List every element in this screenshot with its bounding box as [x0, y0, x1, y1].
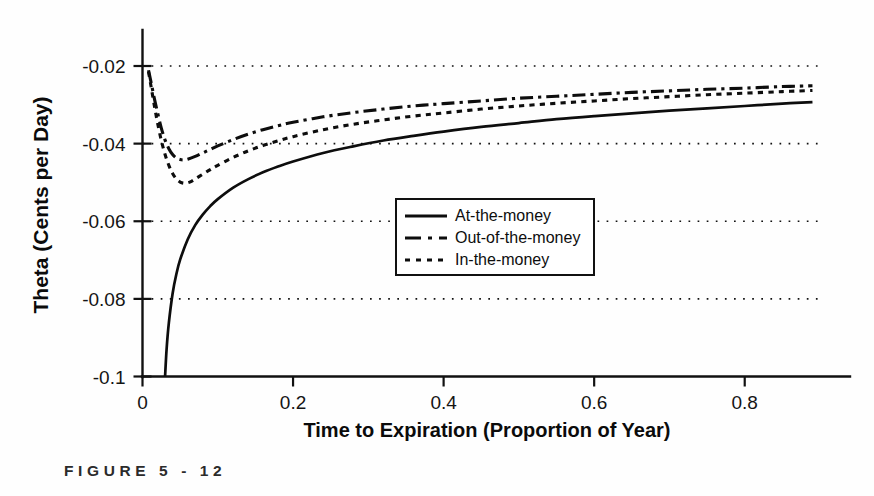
figure-caption: FIGURE 5 - 12	[64, 462, 226, 480]
y-tick-label-2: -0.06	[82, 211, 125, 232]
y-axis-title: Theta (Cents per Day)	[29, 96, 52, 313]
x-tick-label-1: 0.2	[280, 392, 306, 413]
legend-label-out-of-the-money: Out-of-the-money	[455, 230, 580, 246]
legend-item-at-the-money: At-the-money	[404, 205, 587, 227]
legend-swatch-dash-dot-icon	[404, 231, 448, 245]
x-tick-label-3: 0.6	[581, 392, 607, 413]
legend-item-in-the-money: In-the-money	[404, 249, 587, 271]
y-tick-label-1: -0.04	[82, 134, 126, 155]
legend-label-at-the-money: At-the-money	[455, 208, 551, 224]
legend-swatch-dotted-icon	[404, 253, 448, 267]
x-tick-labels: 00.20.40.60.8	[137, 392, 758, 413]
x-tick-label-0: 0	[137, 392, 148, 413]
y-tick-labels: -0.02-0.04-0.06-0.08-0.1	[82, 56, 126, 388]
legend: At-the-money Out-of-the-money In-the-mon…	[395, 198, 595, 276]
legend-label-in-the-money: In-the-money	[455, 252, 549, 268]
legend-item-out-of-the-money: Out-of-the-money	[404, 227, 587, 249]
x-tick-label-4: 0.8	[732, 392, 758, 413]
y-tick-label-4: -0.1	[93, 367, 126, 388]
curve-out-of-the-money	[149, 70, 813, 160]
x-axis-title: Time to Expiration (Proportion of Year)	[303, 419, 670, 441]
figure-root: -0.02-0.04-0.06-0.08-0.1 00.20.40.60.8 T…	[0, 0, 874, 496]
x-tick-label-2: 0.4	[430, 392, 457, 413]
y-tick-label-0: -0.02	[82, 56, 125, 77]
x-tick-marks	[143, 377, 745, 387]
legend-swatch-solid-icon	[404, 209, 448, 223]
y-tick-label-3: -0.08	[82, 289, 125, 310]
